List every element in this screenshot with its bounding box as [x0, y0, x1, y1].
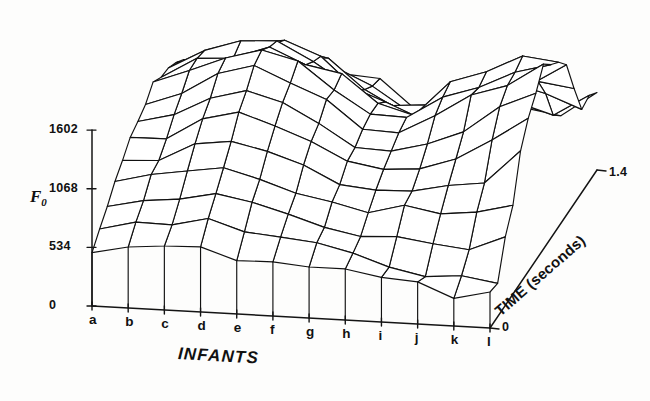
f0-axis-title: F0: [30, 188, 47, 208]
infants-axis-line: [92, 306, 490, 328]
time-tick-label-1-4: 1.4: [609, 166, 627, 179]
infant-tick-label-k: k: [451, 333, 459, 347]
infant-tick-label-e: e: [234, 321, 242, 335]
f0-tick-label-1602: 1602: [49, 123, 78, 136]
infant-tick-label-c: c: [161, 317, 169, 331]
infant-tick-label-j: j: [415, 331, 419, 345]
infants-axis-title: INFANTS: [178, 345, 260, 367]
infant-tick-label-a: a: [89, 313, 97, 327]
figure-container: 1602 1068 534 0 F0 abcdefghijkl INFANTS …: [0, 0, 650, 401]
f0-axis-title-subscript: 0: [41, 196, 47, 208]
infant-tick-label-b: b: [125, 315, 133, 329]
infant-tick-label-d: d: [198, 319, 206, 333]
f0-axis-title-letter: F: [30, 187, 41, 206]
infant-tick-label-l: l: [487, 335, 491, 349]
infant-tick-label-f: f: [270, 323, 275, 337]
infant-tick-label-g: g: [306, 325, 314, 339]
mesh-cell: [123, 137, 167, 160]
mesh-cell: [130, 115, 174, 139]
f0-tick-label-534: 534: [49, 240, 71, 253]
infant-tick-label-i: i: [378, 329, 382, 343]
time-tick-1-4: [597, 170, 606, 171]
time-tick-0: [490, 328, 499, 329]
time-tick-label-0: 0: [502, 321, 509, 334]
mesh-cell: [92, 222, 136, 253]
f0-tick-label-1068: 1068: [49, 182, 78, 195]
f0-tick-label-0: 0: [49, 299, 56, 312]
infant-tick-label-h: h: [342, 327, 350, 341]
surface-plot-svg: [0, 0, 650, 401]
mesh-cell: [418, 276, 462, 299]
